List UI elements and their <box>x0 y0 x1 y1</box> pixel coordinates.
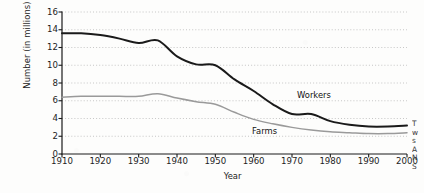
y-tick-label-4: 4 <box>34 114 58 123</box>
margin-note-line-6: S <box>412 163 424 172</box>
series-label-farms: Farms <box>252 126 277 136</box>
x-tick-label-1940: 1940 <box>157 157 197 166</box>
x-tick-label-1950: 1950 <box>195 157 235 166</box>
y-tick-label-16: 16 <box>34 8 58 17</box>
series-label-workers: Workers <box>297 90 331 100</box>
x-axis-tick-labels: 1910192019301940195019601970198019902000 <box>0 157 424 171</box>
y-tick-label-12: 12 <box>34 43 58 52</box>
y-tick-label-2: 2 <box>34 132 58 141</box>
x-axis-title: Year <box>60 171 405 181</box>
x-tick-label-1980: 1980 <box>310 157 350 166</box>
chart-figure: Number (in millions) 0246810121416 19101… <box>0 0 424 193</box>
x-tick-label-1910: 1910 <box>42 157 82 166</box>
x-tick-label-1990: 1990 <box>349 157 389 166</box>
series-line-farms <box>62 94 407 134</box>
x-tick-label-1970: 1970 <box>272 157 312 166</box>
plot-area <box>62 12 407 154</box>
gridlines <box>62 12 407 136</box>
series-lines <box>62 33 407 134</box>
margin-note-clipped: TwsANS <box>412 120 424 180</box>
y-tick-label-14: 14 <box>34 25 58 34</box>
x-tick-label-1920: 1920 <box>80 157 120 166</box>
y-tick-label-6: 6 <box>34 96 58 105</box>
x-tick-label-1960: 1960 <box>234 157 274 166</box>
y-tick-label-8: 8 <box>34 79 58 88</box>
y-tick-label-10: 10 <box>34 61 58 70</box>
x-tick-label-1930: 1930 <box>119 157 159 166</box>
chart-svg <box>62 12 407 154</box>
